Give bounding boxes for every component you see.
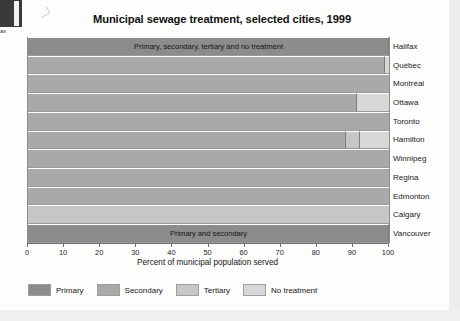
category-label: Québec — [393, 56, 449, 75]
category-label: Toronto — [393, 112, 449, 131]
bar-segment — [28, 131, 346, 150]
chart-legend: PrimarySecondaryTertiaryNo treatment — [28, 282, 330, 298]
bar-row — [28, 74, 389, 93]
x-tick — [316, 243, 317, 247]
bar-row — [28, 149, 389, 168]
category-label: Calgary — [393, 205, 449, 224]
scan-page: ax Municipal sewage treatment, selected … — [0, 0, 460, 321]
figure: Primary, secondary, tertiary and no trea… — [0, 0, 449, 310]
x-tick — [244, 243, 245, 247]
x-tick — [63, 243, 64, 247]
bar-segment — [357, 93, 389, 112]
bar-segment — [360, 131, 389, 150]
x-axis-title: Percent of municipal population served — [27, 258, 388, 267]
bar-segment — [28, 224, 389, 243]
category-label: Regina — [393, 168, 449, 187]
legend-swatch — [97, 284, 120, 296]
legend-item: Primary — [28, 284, 84, 296]
category-label: Hamilton — [393, 131, 449, 150]
legend-label: Secondary — [125, 286, 163, 295]
x-tick-label: 30 — [131, 248, 139, 257]
x-axis: 0102030405060708090100 — [27, 243, 388, 244]
x-tick-label: 100 — [382, 248, 394, 257]
legend-item: Tertiary — [176, 284, 230, 296]
legend-swatch — [243, 284, 266, 296]
bar-segment — [28, 74, 389, 93]
x-tick-label: 60 — [239, 248, 247, 257]
x-tick-label: 10 — [59, 248, 67, 257]
bar-row — [28, 168, 389, 187]
x-tick — [280, 243, 281, 247]
bar-segment — [28, 93, 357, 112]
legend-item: Secondary — [97, 284, 163, 296]
category-label: Montréal — [393, 74, 449, 93]
legend-swatch — [176, 284, 199, 296]
x-tick — [171, 243, 172, 247]
x-tick — [27, 243, 28, 247]
category-label: Halifax — [393, 37, 449, 56]
bar-segment — [28, 168, 389, 187]
bar-segment — [28, 56, 385, 75]
x-tick — [135, 243, 136, 247]
x-tick-label: 50 — [203, 248, 211, 257]
x-tick — [208, 243, 209, 247]
bar-row — [28, 205, 389, 224]
category-label: Edmonton — [393, 187, 449, 206]
x-tick-label: 20 — [95, 248, 103, 257]
bar-segment — [385, 56, 389, 75]
legend-item: No treatment — [243, 284, 317, 296]
plot-area: Primary, secondary, tertiary and no trea… — [27, 37, 390, 243]
x-tick — [352, 243, 353, 247]
bar-row — [28, 131, 389, 150]
bar-segment — [28, 187, 389, 206]
bar-segment — [28, 112, 389, 131]
x-tick-label: 0 — [25, 248, 29, 257]
category-label: Ottawa — [393, 93, 449, 112]
x-tick-label: 80 — [312, 248, 320, 257]
bar-row — [28, 93, 389, 112]
scan-edge-right — [449, 0, 460, 321]
x-tick — [388, 243, 389, 247]
x-tick-label: 70 — [276, 248, 284, 257]
category-label: Vancouver — [393, 224, 449, 243]
bar-segment — [28, 205, 389, 224]
scan-edge-bottom — [0, 310, 460, 321]
bar-row — [28, 56, 389, 75]
bar-row: Primary and secondary — [28, 224, 389, 243]
bar-row — [28, 187, 389, 206]
bar-segment — [28, 149, 389, 168]
bar-segment — [28, 37, 389, 56]
legend-label: No treatment — [271, 286, 317, 295]
bar-row: Primary, secondary, tertiary and no trea… — [28, 37, 389, 56]
bar-segment — [346, 131, 360, 150]
bar-row — [28, 112, 389, 131]
legend-swatch — [28, 284, 51, 296]
x-tick-label: 90 — [348, 248, 356, 257]
legend-label: Tertiary — [204, 286, 230, 295]
legend-label: Primary — [56, 286, 84, 295]
x-tick-label: 40 — [167, 248, 175, 257]
x-tick — [99, 243, 100, 247]
category-label: Winnipeg — [393, 149, 449, 168]
category-axis-labels: HalifaxQuébecMontréalOttawaTorontoHamilt… — [393, 37, 449, 243]
